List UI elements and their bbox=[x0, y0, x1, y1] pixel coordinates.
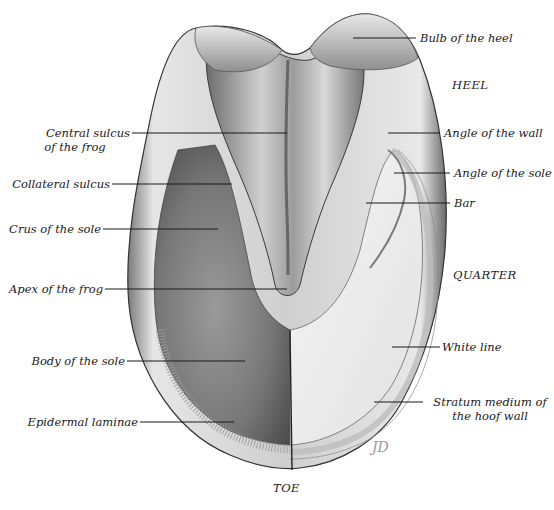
region-toe: TOE bbox=[273, 481, 300, 495]
artist-signature: JD bbox=[369, 439, 389, 455]
label-bar: Bar bbox=[454, 196, 475, 210]
heel-bulb-right bbox=[310, 14, 418, 70]
label-stratum-medium-line2: the hoof wall bbox=[425, 409, 554, 423]
label-central-sulcus-line1: Central sulcus bbox=[20, 126, 130, 140]
label-stratum-medium: Stratum medium of the hoof wall bbox=[425, 395, 554, 423]
label-bulb-of-heel: Bulb of the heel bbox=[420, 31, 513, 45]
label-collateral-sulcus: Collateral sulcus bbox=[0, 177, 110, 191]
label-angle-of-wall: Angle of the wall bbox=[444, 126, 543, 140]
label-white-line: White line bbox=[442, 340, 502, 354]
label-angle-of-sole: Angle of the sole bbox=[454, 166, 552, 180]
label-crus-of-sole: Crus of the sole bbox=[0, 222, 101, 236]
label-body-of-sole: Body of the sole bbox=[0, 354, 125, 368]
hoof-anatomy-figure: JD Central sulcus of the frog Collateral… bbox=[0, 0, 554, 510]
hoof-illustration: JD bbox=[0, 0, 554, 510]
label-stratum-medium-line1: Stratum medium of bbox=[425, 395, 554, 409]
label-central-sulcus-line2: of the frog bbox=[20, 140, 130, 154]
label-central-sulcus: Central sulcus of the frog bbox=[20, 126, 130, 154]
region-heel: HEEL bbox=[452, 78, 488, 92]
region-quarter: QUARTER bbox=[453, 268, 517, 282]
label-epidermal-laminae: Epidermal laminae bbox=[0, 415, 138, 429]
label-apex-of-frog: Apex of the frog bbox=[0, 282, 103, 296]
